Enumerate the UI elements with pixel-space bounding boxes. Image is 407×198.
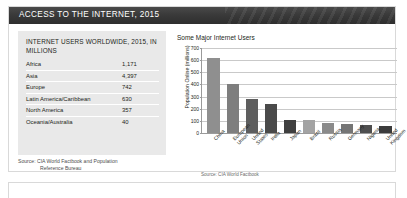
y-tick-label: 400: [191, 81, 199, 87]
table-row: Oceania/Australia40: [26, 117, 159, 128]
internet-users-panel: INTERNET USERS WORLDWIDE, 2015, IN MILLI…: [18, 31, 166, 155]
bar: [265, 104, 277, 134]
x-tick: Russia: [318, 136, 337, 180]
bar-cell: [357, 48, 376, 133]
internet-users-table: Africa1,171Asia4,397Europe742Latin Ameri…: [26, 59, 159, 128]
bar-cell: [204, 48, 223, 133]
bar-cell: [376, 48, 395, 133]
x-tick: Nigeria: [357, 136, 376, 180]
bar: [227, 84, 239, 133]
bar-cell: [280, 48, 299, 133]
bar-cell: [223, 48, 242, 133]
bar-cell: [242, 48, 261, 133]
y-axis-label: Population Online (millions): [184, 40, 190, 114]
figure-header-bar: ACCESS TO THE INTERNET, 2015: [9, 7, 395, 24]
y-tick-label: 600: [191, 57, 199, 63]
bar-cell: [261, 48, 280, 133]
bar-series: [202, 48, 397, 133]
region-name: Asia: [26, 73, 37, 79]
y-tick-label: 500: [191, 69, 199, 75]
bar-cell: [338, 48, 357, 133]
x-tick: UnitedKingdom: [376, 136, 395, 180]
bar-chart: Some Major Internet Users Population Onl…: [177, 31, 399, 177]
table-row: North America357: [26, 105, 159, 117]
region-users: 357: [122, 107, 132, 113]
region-name: Latin America/Caribbean: [26, 96, 91, 102]
region-name: North America: [26, 107, 63, 113]
table-source-line1: Source: CIA World Factbook and Populatio…: [18, 158, 118, 164]
region-users: 4,397: [122, 73, 137, 79]
bar: [207, 58, 219, 133]
table-row: Europe742: [26, 82, 159, 94]
x-tick: Japan: [280, 136, 299, 180]
region-users: 40: [122, 119, 129, 125]
region-name: Europe: [26, 84, 45, 90]
x-tick: Brazil: [299, 136, 318, 180]
region-users: 1,171: [122, 61, 137, 67]
page-footer-frame: [8, 182, 396, 198]
bar-cell: [319, 48, 338, 133]
y-tick-mark: [200, 133, 203, 134]
chart-source-note: Source: CIA World Factbook: [201, 172, 259, 177]
x-tick: Germany: [337, 136, 356, 180]
bar-cell: [299, 48, 318, 133]
plot-wrapper: Population Online (millions) 01002003004…: [177, 46, 399, 150]
region-name: Africa: [26, 61, 41, 67]
figure-card: ACCESS TO THE INTERNET, 2015 INTERNET US…: [8, 6, 396, 172]
region-users: 630: [122, 96, 132, 102]
region-name: Oceania/Australia: [26, 119, 73, 125]
table-source-note: Source: CIA World Factbook and Populatio…: [18, 158, 178, 172]
y-tick-label: 200: [191, 106, 199, 112]
region-users: 742: [122, 84, 132, 90]
y-tick-label: 100: [191, 118, 199, 124]
y-tick-label: 300: [191, 94, 199, 100]
table-row: Africa1,171: [26, 59, 159, 71]
table-row: Latin America/Caribbean630: [26, 94, 159, 106]
figure-title: ACCESS TO THE INTERNET, 2015: [19, 10, 159, 19]
x-tick: India: [261, 136, 280, 180]
plot-area: 0100200300400500600700: [201, 48, 397, 134]
table-title: INTERNET USERS WORLDWIDE, 2015, IN MILLI…: [26, 38, 158, 55]
table-row: Asia4,397: [26, 71, 159, 83]
table-source-line2: Reference Bureau: [18, 165, 178, 172]
header-texture: [225, 7, 395, 24]
y-tick-label: 700: [191, 45, 199, 51]
